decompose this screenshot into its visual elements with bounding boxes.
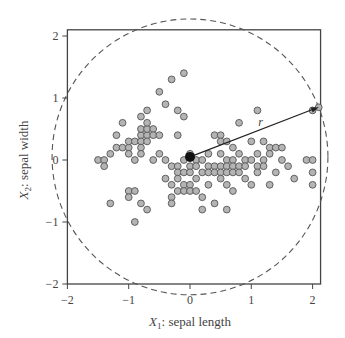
data-point bbox=[248, 157, 255, 164]
data-point bbox=[205, 181, 212, 188]
data-point bbox=[144, 107, 151, 114]
data-point bbox=[193, 188, 200, 195]
data-point bbox=[199, 157, 206, 164]
data-point bbox=[217, 150, 224, 157]
data-point bbox=[285, 163, 292, 170]
radius-line bbox=[190, 108, 316, 157]
data-point bbox=[211, 200, 218, 207]
data-point bbox=[199, 194, 206, 201]
scatter-chart: r −2−1012 −2−1012 X1: sepal length X2: s… bbox=[0, 0, 345, 338]
data-point bbox=[107, 150, 114, 157]
y-tick-label: 2 bbox=[52, 29, 58, 43]
data-point bbox=[150, 157, 157, 164]
data-point bbox=[131, 188, 138, 195]
data-point bbox=[266, 150, 273, 157]
data-point bbox=[180, 70, 187, 77]
data-point bbox=[309, 157, 316, 164]
data-point bbox=[279, 157, 286, 164]
data-point bbox=[174, 175, 181, 182]
data-point bbox=[162, 175, 169, 182]
data-point bbox=[205, 150, 212, 157]
data-point bbox=[144, 206, 151, 213]
data-point bbox=[131, 219, 138, 226]
data-point bbox=[131, 157, 138, 164]
x-axis-label: X1: sepal length bbox=[148, 314, 231, 331]
data-point bbox=[162, 157, 169, 164]
center-point bbox=[185, 152, 195, 162]
data-point bbox=[279, 144, 286, 151]
data-point bbox=[156, 150, 163, 157]
data-point bbox=[260, 138, 267, 145]
data-point bbox=[236, 169, 243, 176]
data-point bbox=[254, 107, 261, 114]
data-point bbox=[101, 163, 108, 170]
data-point bbox=[174, 107, 181, 114]
x-axis-ticks: −2−1012 bbox=[61, 284, 316, 307]
x-tick-label: 0 bbox=[187, 293, 193, 307]
data-point bbox=[162, 101, 169, 108]
data-point bbox=[174, 132, 181, 139]
y-tick-label: 0 bbox=[52, 153, 58, 167]
data-point bbox=[113, 132, 120, 139]
data-point bbox=[156, 132, 163, 139]
data-point bbox=[217, 175, 224, 182]
data-point bbox=[260, 163, 267, 170]
data-point bbox=[125, 150, 132, 157]
data-point bbox=[291, 175, 298, 182]
data-point bbox=[138, 113, 145, 120]
data-point bbox=[193, 163, 200, 170]
data-point bbox=[144, 138, 151, 145]
data-point bbox=[119, 119, 126, 126]
data-point bbox=[180, 113, 187, 120]
x-tick-label: −1 bbox=[122, 293, 135, 307]
y-axis-ticks: −2−1012 bbox=[46, 29, 68, 291]
data-point bbox=[199, 206, 206, 213]
data-point bbox=[248, 138, 255, 145]
data-point bbox=[223, 181, 230, 188]
data-point bbox=[138, 150, 145, 157]
data-point bbox=[223, 206, 230, 213]
x-tick-label: 2 bbox=[310, 293, 316, 307]
data-point bbox=[309, 169, 316, 176]
data-point bbox=[236, 119, 243, 126]
y-tick-label: 1 bbox=[52, 91, 58, 105]
data-point bbox=[254, 169, 261, 176]
x-tick-label: 1 bbox=[248, 293, 254, 307]
data-point bbox=[144, 119, 151, 126]
data-point bbox=[138, 200, 145, 207]
data-points bbox=[95, 70, 322, 226]
data-point bbox=[272, 169, 279, 176]
data-point bbox=[242, 175, 249, 182]
data-point bbox=[266, 181, 273, 188]
data-point bbox=[242, 163, 249, 170]
data-point bbox=[156, 88, 163, 95]
data-point bbox=[187, 169, 194, 176]
data-point bbox=[168, 200, 175, 207]
data-point bbox=[248, 181, 255, 188]
radius-label: r bbox=[258, 115, 263, 129]
y-tick-label: −2 bbox=[46, 277, 59, 291]
data-point bbox=[254, 150, 261, 157]
data-point bbox=[107, 200, 114, 207]
y-tick-label: −1 bbox=[46, 215, 59, 229]
data-point bbox=[168, 76, 175, 83]
data-point bbox=[193, 175, 200, 182]
data-point bbox=[309, 181, 316, 188]
data-point bbox=[168, 181, 175, 188]
data-point bbox=[230, 188, 237, 195]
data-point bbox=[236, 150, 243, 157]
x-tick-label: −2 bbox=[61, 293, 74, 307]
data-point bbox=[125, 194, 132, 201]
y-axis-label: X2: sepal width bbox=[16, 120, 33, 200]
data-point bbox=[230, 144, 237, 151]
